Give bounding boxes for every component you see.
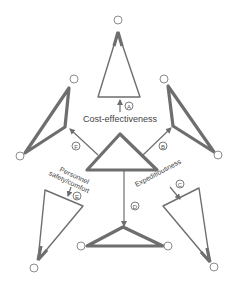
triangle-upper-left xyxy=(16,75,78,160)
node-lower-right xyxy=(210,263,218,271)
node-upper-left-bottom xyxy=(16,152,24,160)
marker-e: E xyxy=(75,194,79,200)
node-upper-left-top xyxy=(70,75,78,83)
node-upper-right-bottom xyxy=(214,151,222,159)
triangle-relationship-diagram: A Cost-effectiveness F B D xyxy=(0,0,233,289)
triangle-upper-right xyxy=(160,75,222,159)
arrow-d: D xyxy=(124,170,139,226)
label-personnel-safety: Personnel safety/comfort xyxy=(47,162,94,195)
label-expeditiousness: Expeditiousness xyxy=(134,158,183,189)
node-bottom-right xyxy=(164,242,172,250)
arrow-b: B xyxy=(143,128,171,155)
marker-f: F xyxy=(74,144,78,150)
label-cost-effectiveness: Cost-effectiveness xyxy=(83,114,157,124)
marker-a: A xyxy=(127,104,131,110)
node-lower-left xyxy=(30,264,38,272)
arrow-a: A xyxy=(120,100,133,112)
marker-d: D xyxy=(133,204,138,210)
node-upper-right-top xyxy=(160,75,168,83)
marker-b: B xyxy=(161,144,165,150)
triangle-top xyxy=(98,16,140,97)
arrow-f: F xyxy=(70,129,98,155)
node-top xyxy=(114,16,122,24)
triangle-lower-left xyxy=(30,190,83,272)
node-bottom-left xyxy=(77,242,85,250)
triangle-bottom xyxy=(77,227,172,250)
triangle-lower-right xyxy=(163,188,218,271)
marker-c: C xyxy=(178,182,183,188)
